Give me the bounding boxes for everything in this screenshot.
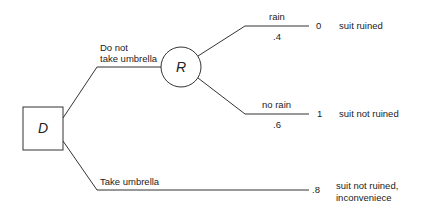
outcome-umbrella-description-line2: inconveniece — [336, 192, 391, 203]
utility-rain: 0 — [316, 20, 321, 31]
outcome-no-rain-description: suit not ruined — [339, 108, 399, 119]
utility-no-rain: 1 — [317, 108, 322, 119]
edge-no-umbrella — [63, 67, 161, 118]
edge-rain — [198, 26, 309, 56]
outcome-rain-description: suit ruined — [339, 20, 383, 31]
branch-label-umbrella: Take umbrella — [100, 176, 159, 187]
branch-label-rain: rain — [269, 11, 285, 22]
edge-no-rain — [198, 78, 309, 114]
probability-no-rain: .6 — [273, 119, 281, 130]
branch-label-no-rain: no rain — [262, 99, 291, 110]
branch-label-no-umbrella-line1: Do not — [100, 42, 128, 53]
decision-tree-diagram: D R Do not take umbrella Take umbrella r… — [0, 0, 424, 213]
probability-rain: .4 — [273, 31, 281, 42]
chance-node-label: R — [161, 59, 201, 75]
outcome-umbrella-description-line1: suit not ruined, — [336, 180, 398, 191]
decision-node-label: D — [23, 120, 63, 136]
branch-label-no-umbrella-line2: take umbrella — [100, 53, 157, 64]
utility-umbrella: .8 — [312, 184, 320, 195]
